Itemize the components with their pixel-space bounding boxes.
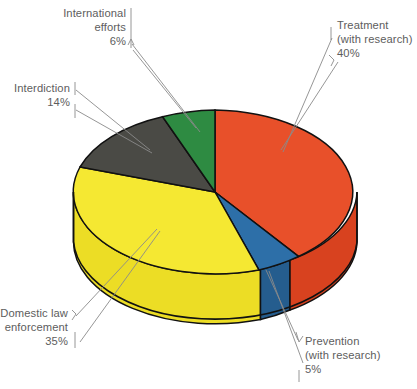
pie-chart-figure: International efforts 6% Interdiction 14… — [0, 0, 417, 389]
bracket-international-efforts — [128, 8, 134, 48]
bracket-domestic-law-enforcement — [72, 310, 76, 348]
label-prevention-line2: (with research) — [305, 349, 381, 361]
label-interdiction-value: 14% — [47, 96, 70, 108]
label-domestic-law-enforcement-line1: Domestic law — [0, 307, 69, 319]
bracket-treatment — [329, 27, 334, 66]
label-international-efforts-line1: International — [63, 7, 126, 19]
label-prevention: Prevention (with research) 5% — [305, 335, 381, 375]
label-treatment-value: 40% — [337, 47, 360, 59]
label-international-efforts-value: 6% — [110, 35, 126, 47]
label-prevention-value: 5% — [305, 363, 321, 375]
label-domestic-law-enforcement-line2: enforcement — [5, 321, 69, 333]
label-international-efforts: International efforts 6% — [63, 7, 126, 47]
label-international-efforts-line2: efforts — [94, 21, 126, 33]
label-interdiction: Interdiction 14% — [14, 82, 70, 108]
label-interdiction-line1: Interdiction — [14, 82, 70, 94]
bracket-prevention — [296, 332, 303, 382]
label-treatment: Treatment (with research) 40% — [337, 19, 413, 59]
label-domestic-law-enforcement-value: 35% — [45, 335, 68, 347]
pie-chart-svg: International efforts 6% Interdiction 14… — [0, 0, 417, 389]
label-treatment-line2: (with research) — [337, 33, 413, 45]
label-treatment-line1: Treatment — [337, 19, 389, 31]
label-domestic-law-enforcement: Domestic law enforcement 35% — [0, 307, 69, 347]
label-prevention-line1: Prevention — [305, 335, 360, 347]
